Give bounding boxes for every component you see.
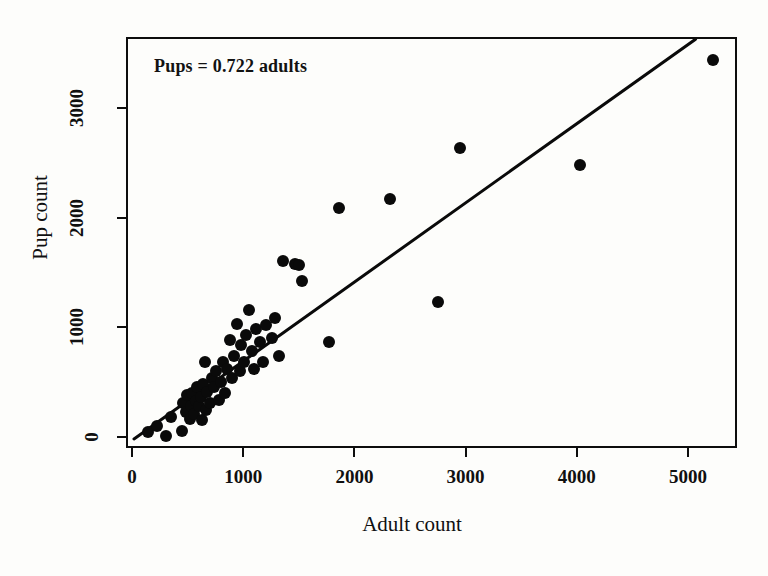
y-axis-tick-label: 0 (80, 432, 102, 442)
data-point (293, 259, 305, 271)
x-axis-tick (353, 448, 355, 457)
x-axis-tick-label: 3000 (447, 466, 485, 488)
x-axis-title-text: Adult count (362, 512, 462, 536)
x-axis-tick-label: 4000 (558, 466, 596, 488)
data-point (273, 350, 285, 362)
x-axis-tick (242, 448, 244, 457)
data-point (296, 275, 308, 287)
data-point (277, 255, 289, 267)
data-point (160, 430, 172, 442)
x-axis-tick-label: 5000 (669, 466, 707, 488)
data-point (574, 159, 586, 171)
data-point (266, 332, 278, 344)
data-point (219, 387, 231, 399)
plot-area: Pups = 0.722 adults (126, 37, 737, 448)
data-point (454, 142, 466, 154)
y-axis-tick (117, 436, 126, 438)
y-axis-tick (117, 107, 126, 109)
y-axis-tick-label: 3000 (66, 89, 88, 127)
data-point (269, 312, 281, 324)
x-axis-tick-label: 2000 (335, 466, 373, 488)
x-axis-tick (465, 448, 467, 457)
y-axis-title: Pup count (28, 18, 53, 418)
x-axis-tick-label: 0 (127, 466, 137, 488)
data-point (165, 411, 177, 423)
data-point (151, 420, 163, 432)
data-point (176, 425, 188, 437)
scatter-plot-figure: Pups = 0.722 adults 01000200030004000500… (0, 0, 768, 576)
x-axis-tick (576, 448, 578, 457)
y-axis-tick-label: 2000 (66, 199, 88, 237)
data-point (224, 334, 236, 346)
data-point (243, 304, 255, 316)
data-point (231, 318, 243, 330)
data-point (257, 356, 269, 368)
data-point (323, 336, 335, 348)
data-point (199, 356, 211, 368)
data-point (432, 296, 444, 308)
y-axis-tick-label: 1000 (66, 308, 88, 346)
data-points-layer (128, 39, 735, 446)
data-point (254, 336, 266, 348)
x-axis-tick (687, 448, 689, 457)
x-axis-tick (131, 448, 133, 457)
y-axis-tick (117, 217, 126, 219)
data-point (196, 414, 208, 426)
data-point (384, 193, 396, 205)
data-point (707, 54, 719, 66)
data-point (333, 202, 345, 214)
x-axis-title: Adult count (0, 512, 768, 537)
x-axis-tick-label: 1000 (224, 466, 262, 488)
y-axis-tick (117, 326, 126, 328)
